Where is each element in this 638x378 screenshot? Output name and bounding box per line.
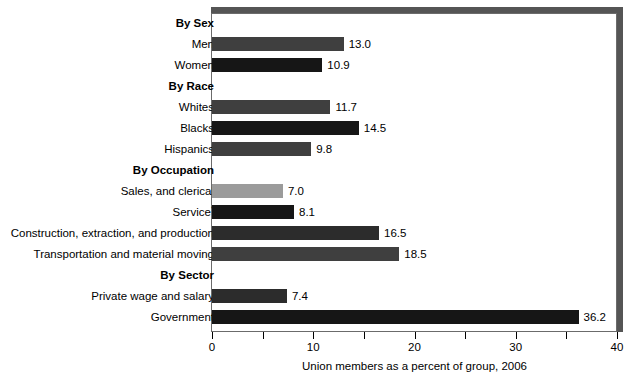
x-axis-tick	[313, 332, 314, 339]
bar-value-label: 7.0	[288, 181, 304, 202]
chart-row-bar: Blacks14.5	[0, 118, 638, 139]
bar-value-label: 7.4	[292, 286, 308, 307]
bar-value-label: 14.5	[364, 118, 386, 139]
bar-value-label: 9.8	[316, 139, 332, 160]
bar-value-label: 8.1	[299, 202, 315, 223]
bar	[212, 100, 330, 114]
bar-track: 7.4	[212, 286, 617, 307]
category-label: Transportation and material moving	[34, 244, 214, 265]
x-axis-tick-label: 20	[408, 341, 421, 353]
bar	[212, 58, 322, 72]
bar	[212, 310, 579, 324]
category-label: Government	[151, 307, 214, 328]
bar-track: 10.9	[212, 55, 617, 76]
union-membership-bar-chart: By SexMen13.0Women10.9By RaceWhites11.7B…	[0, 0, 638, 378]
bar	[212, 247, 399, 261]
chart-rows: By SexMen13.0Women10.9By RaceWhites11.7B…	[0, 13, 638, 349]
bar	[212, 205, 294, 219]
x-axis: Union members as a percent of group, 200…	[212, 332, 617, 378]
category-label: Hispanics	[164, 139, 214, 160]
bar-track: 36.2	[212, 307, 617, 328]
chart-row-bar: Whites11.7	[0, 97, 638, 118]
chart-row-group-header: By Sector	[0, 265, 638, 286]
chart-row-group-header: By Occupation	[0, 160, 638, 181]
category-label: Men	[192, 34, 214, 55]
x-axis-tick	[566, 332, 567, 339]
x-axis-tick	[465, 332, 466, 339]
x-axis-tick-label: 10	[307, 341, 320, 353]
category-label: Women	[175, 55, 214, 76]
bar	[212, 226, 379, 240]
x-axis-tick	[516, 332, 517, 339]
bar-track: 8.1	[212, 202, 617, 223]
bar-value-label: 16.5	[384, 223, 406, 244]
bar-track: 14.5	[212, 118, 617, 139]
group-header-label: By Race	[169, 76, 214, 97]
chart-row-bar: Sales, and clerical7.0	[0, 181, 638, 202]
bar	[212, 142, 311, 156]
group-header-label: By Sex	[176, 13, 214, 34]
chart-row-group-header: By Race	[0, 76, 638, 97]
x-axis-tick	[212, 332, 213, 339]
bar-track: 13.0	[212, 34, 617, 55]
bar-track: 18.5	[212, 244, 617, 265]
category-label: Service*	[173, 202, 214, 223]
chart-row-group-header: By Sex	[0, 13, 638, 34]
bar-value-label: 13.0	[349, 34, 371, 55]
bar-value-label: 36.2	[584, 307, 606, 328]
bar	[212, 184, 283, 198]
bar	[212, 37, 344, 51]
bar-track: 11.7	[212, 97, 617, 118]
bar	[212, 289, 287, 303]
x-axis-tick	[364, 332, 365, 339]
group-header-label: By Occupation	[133, 160, 214, 181]
x-axis-tick-label: 40	[611, 341, 624, 353]
category-label: Private wage and salary	[91, 286, 214, 307]
chart-row-bar: Construction, extraction, and production…	[0, 223, 638, 244]
bar-track: 9.8	[212, 139, 617, 160]
bar-track: 7.0	[212, 181, 617, 202]
x-axis-tick	[415, 332, 416, 339]
category-label: Sales, and clerical	[121, 181, 214, 202]
bar-value-label: 11.7	[335, 97, 357, 118]
x-axis-tick-label: 0	[209, 341, 215, 353]
chart-row-bar: Government36.2	[0, 307, 638, 328]
bar-track: 16.5	[212, 223, 617, 244]
bar-value-label: 10.9	[327, 55, 349, 76]
x-axis-tick	[617, 332, 618, 339]
category-label: Blacks	[180, 118, 214, 139]
chart-row-bar: Women10.9	[0, 55, 638, 76]
chart-row-bar: Transportation and material moving18.5	[0, 244, 638, 265]
group-header-label: By Sector	[160, 265, 214, 286]
bar-value-label: 18.5	[404, 244, 426, 265]
category-label: Whites	[179, 97, 214, 118]
bar	[212, 121, 359, 135]
category-label: Construction, extraction, and production	[11, 223, 214, 244]
chart-row-bar: Private wage and salary7.4	[0, 286, 638, 307]
x-axis-tick-label: 30	[509, 341, 522, 353]
x-axis-title: Union members as a percent of group, 200…	[212, 360, 617, 372]
chart-row-bar: Hispanics9.8	[0, 139, 638, 160]
x-axis-tick	[263, 332, 264, 339]
chart-row-bar: Service*8.1	[0, 202, 638, 223]
chart-row-bar: Men13.0	[0, 34, 638, 55]
